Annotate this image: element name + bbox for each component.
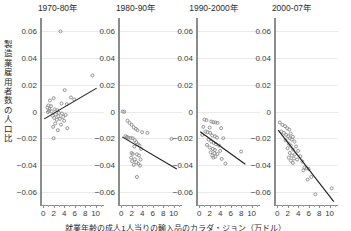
data-point [202, 125, 205, 128]
data-point [302, 169, 305, 172]
y-tick-label: 0.04 [177, 54, 193, 63]
data-point [52, 125, 55, 128]
data-point [295, 145, 298, 148]
x-tick-minor [69, 205, 70, 207]
data-point [54, 122, 57, 125]
data-point [306, 178, 309, 181]
y-tick-label: 0.02 [255, 80, 271, 89]
x-tick-minor [80, 205, 81, 207]
data-point [48, 99, 51, 102]
x-axis-line [274, 205, 338, 206]
x-tick-label: 4 [296, 209, 300, 218]
x-tick [121, 205, 122, 208]
data-point [215, 136, 218, 139]
data-point [286, 147, 289, 150]
x-tick [153, 205, 154, 208]
data-point [57, 111, 60, 114]
chart-figure: 製造業雇用者数の人口比 就業年齢の成人1人当りの輸入品のカラダ・ジョン（万ドル）… [0, 0, 351, 231]
x-tick [220, 205, 221, 208]
x-tick-label: 4 [140, 209, 144, 218]
data-point [219, 149, 222, 152]
y-tick-label: −0.06 [17, 187, 37, 196]
x-tick [330, 205, 331, 208]
x-tick-minor [48, 205, 49, 207]
x-tick-label: 2 [207, 209, 211, 218]
x-tick-label: 6 [150, 209, 154, 218]
y-tick-label: 0.06 [255, 27, 271, 36]
x-tick-label: 6 [72, 209, 76, 218]
data-point [146, 131, 149, 134]
y-tick-label: 0.02 [177, 80, 193, 89]
data-point [310, 175, 313, 178]
data-point [63, 89, 66, 92]
x-tick [64, 205, 65, 208]
x-tick [288, 205, 289, 208]
x-tick-label: 10 [325, 209, 334, 218]
x-tick-minor [335, 205, 336, 207]
x-tick-minor [236, 205, 237, 207]
x-tick [54, 205, 55, 208]
y-tick-label: 0 [33, 107, 37, 116]
x-tick-minor [147, 205, 148, 207]
x-tick [231, 205, 232, 208]
x-tick [43, 205, 44, 208]
data-point [69, 96, 72, 99]
x-tick-minor [137, 205, 138, 207]
data-point [297, 149, 300, 152]
data-point [61, 112, 64, 115]
x-tick-minor [314, 205, 315, 207]
data-point [278, 121, 281, 124]
y-tick-label: 0.04 [99, 54, 115, 63]
data-point [289, 132, 292, 135]
x-tick-minor [225, 205, 226, 207]
y-tick-label: −0.02 [17, 134, 37, 143]
x-tick [142, 205, 143, 208]
data-point [212, 156, 215, 159]
x-tick [132, 205, 133, 208]
data-point [291, 161, 294, 164]
data-point [208, 126, 211, 129]
y-tick-label: 0 [267, 107, 271, 116]
data-point [133, 145, 136, 148]
y-tick-label: 0.04 [21, 54, 37, 63]
x-tick-label: 0 [41, 209, 45, 218]
data-point [292, 157, 295, 160]
data-point [296, 158, 299, 161]
x-tick [199, 205, 200, 208]
y-tick-label: −0.06 [95, 187, 115, 196]
x-tick [309, 205, 310, 208]
x-tick-label: 2 [51, 209, 55, 218]
data-point [220, 157, 223, 160]
scatter-points [274, 18, 338, 205]
x-tick-label: 4 [62, 209, 66, 218]
x-tick-label: 0 [119, 209, 123, 218]
regression-line [278, 130, 334, 201]
x-tick-minor [59, 205, 60, 207]
data-point [216, 121, 219, 124]
x-tick-label: 8 [317, 209, 321, 218]
y-tick-label: −0.04 [173, 160, 193, 169]
x-tick-minor [293, 205, 294, 207]
y-tick-label: −0.04 [17, 160, 37, 169]
data-point [63, 119, 66, 122]
y-tick-label: −0.02 [95, 134, 115, 143]
data-point [59, 30, 62, 33]
data-point [52, 137, 55, 140]
x-tick-label: 2 [129, 209, 133, 218]
x-tick [277, 205, 278, 208]
x-tick-label: 2 [285, 209, 289, 218]
y-tick-label: −0.02 [173, 134, 193, 143]
x-tick [75, 205, 76, 208]
x-tick [298, 205, 299, 208]
x-tick [319, 205, 320, 208]
data-point [135, 175, 138, 178]
data-point [59, 123, 62, 126]
data-point [137, 154, 140, 157]
y-tick-label: 0.02 [21, 80, 37, 89]
x-tick-minor [204, 205, 205, 207]
x-tick-minor [126, 205, 127, 207]
x-tick-label: 4 [218, 209, 222, 218]
data-point [222, 137, 225, 140]
x-axis: 0246810 [274, 205, 338, 225]
data-point [56, 129, 59, 132]
